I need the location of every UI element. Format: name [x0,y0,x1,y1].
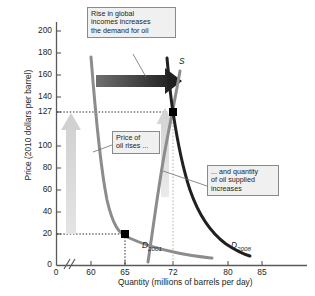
demand-2008-label-sub: 2008 [237,245,251,252]
y-tick-200: 200 [18,25,52,35]
figure-container: 200 180 160 140 127 100 80 60 40 20 0 0 … [0,0,315,296]
y-tick-marks [57,31,62,234]
x-tick-0: 0 [46,267,66,277]
callout-price-line-2: oil rises ... [116,142,156,150]
x-tick-60: 60 [81,267,101,277]
y-tick-20: 20 [18,228,52,238]
x-tick-80: 80 [218,267,238,277]
y-tick-40: 40 [18,206,52,216]
demand-curve-2008 [167,58,250,256]
x-tick-marks [91,261,262,266]
callout-qty-line-3: increases [211,185,275,193]
leader-demand [133,54,146,77]
callout-demand-shift: Rise in global incomes increases the dem… [87,7,176,38]
leader-price [93,145,112,152]
demand-2001-label-sub: 2001 [148,245,162,252]
price-rise-arrow [61,113,81,234]
supply-curve-label: S [179,56,185,66]
callout-price-rises: Price of oil rises ... [112,131,160,154]
equilibrium-marker-2008 [169,108,177,116]
callout-quantity-increases: ... and quantity of oil supplied increas… [207,165,279,196]
x-tick-72: 72 [163,267,183,277]
callout-demand-line-3: the demand for oil [91,27,172,35]
x-tick-65: 65 [115,267,135,277]
x-tick-85: 85 [252,267,272,277]
equilibrium-marker-2001 [121,230,129,238]
demand-2001-curve-label: D2001 [142,240,162,252]
x-axis-title: Quantity (millions of barrels per day) [118,277,253,287]
callout-leader-lines [93,54,207,186]
supply-label-text: S [179,56,185,66]
demand-2008-curve-label: D2008 [231,240,251,252]
y-axis-title: Price (2010 dollars per barrel) [23,50,33,200]
